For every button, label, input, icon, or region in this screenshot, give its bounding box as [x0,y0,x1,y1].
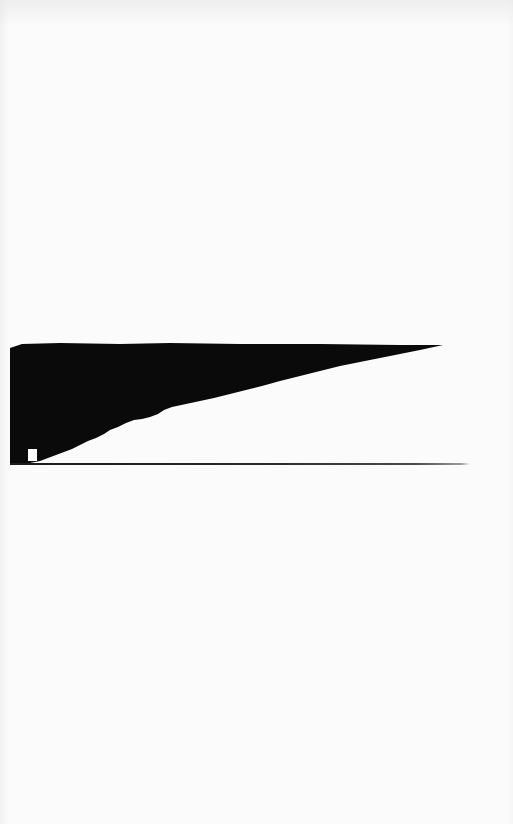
document-page [0,0,513,824]
blank-lower-margin [0,470,513,824]
horizontal-rule [10,463,470,465]
blank-void-notch [28,449,37,461]
